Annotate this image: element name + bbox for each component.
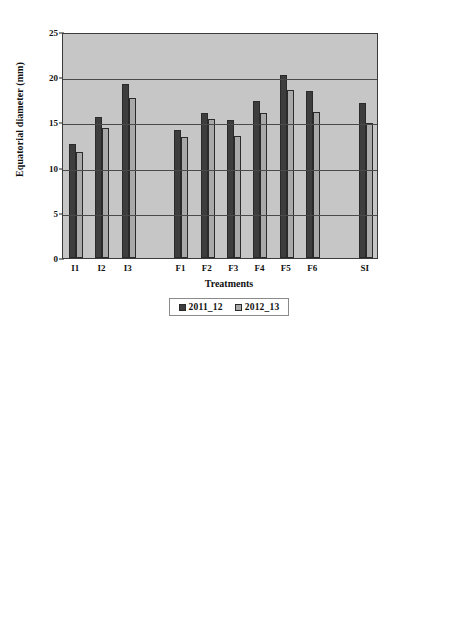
chart1-plot-area [62,33,378,259]
bar-I3-2012_13 [129,98,136,258]
chart1-x-tick-F1: F1 [176,263,186,273]
bar-group [221,34,247,258]
bar-I1-2011_12 [69,144,76,258]
bar-I3-2011_12 [122,84,129,258]
bar-F2-2011_12 [201,113,208,258]
bar-F6-2012_13 [313,112,320,258]
chart1-y-tick: 15 [49,118,58,128]
bar-F3-2012_13 [234,136,241,258]
chart-equatorial-diameter: Equatorial diameter (mm) 0510152025 I1I2… [0,0,458,330]
legend-item-2011_12: 2011_12 [179,302,223,312]
chart1-x-tick-F2: F2 [202,263,212,273]
chart1-y-axis-title: Equatorial diameter (mm) [14,35,25,205]
bar-F3-2011_12 [227,120,234,258]
legend-swatch-icon [235,304,242,311]
legend-swatch-icon [179,304,186,311]
chart1-y-tick-labels: 0510152025 [36,33,58,259]
bar-SI-2011_12 [359,103,366,258]
chart1-plot-region: Equatorial diameter (mm) 0510152025 I1I2… [0,0,458,330]
bar-group [300,34,326,258]
bar-F5-2011_12 [280,75,287,259]
chart1-x-tick-F3: F3 [228,263,238,273]
bar-F1-2011_12 [174,130,181,258]
chart1-y-tick: 25 [49,28,58,38]
chart1-y-tick: 5 [54,209,59,219]
bar-group [353,34,379,258]
chart1-x-tick-F6: F6 [307,263,317,273]
chart1-gridline [63,124,377,125]
chart2-plot-region: Polar diameters (mm) 012345678 I1I2I3F1F… [0,330,458,638]
bar-I1-2012_13 [76,152,83,258]
bar-F2-2012_13 [208,119,215,258]
chart1-bars [63,34,377,258]
chart1-legend: 2011_122012_13 [0,298,458,316]
bar-F5-2012_13 [287,90,294,258]
chart1-gridline [63,215,377,216]
bar-I2-2011_12 [95,117,102,258]
chart1-x-tick-labels: I1I2I3F1F2F3F4F5F6SI [62,263,378,277]
bar-F4-2012_13 [260,113,267,258]
bar-group [168,34,194,258]
legend-label: 2011_12 [189,302,223,312]
chart1-legend-box: 2011_122012_13 [169,298,290,316]
chart1-x-axis-title: Treatments [0,278,458,289]
figure-page: Equatorial diameter (mm) 0510152025 I1I2… [0,0,458,638]
chart1-x-tick-SI: SI [361,263,370,273]
chart1-x-tick-I3: I3 [124,263,132,273]
legend-label: 2012_13 [245,302,280,312]
bar-F1-2012_13 [181,137,188,258]
bar-SI-2012_13 [366,123,373,258]
chart1-y-tick: 20 [49,73,58,83]
bar-group [247,34,273,258]
bar-F6-2011_12 [306,91,313,258]
bar-group [63,34,89,258]
chart1-y-tick: 10 [49,164,58,174]
chart1-gridline [63,79,377,80]
bar-group [274,34,300,258]
chart1-x-tick-I2: I2 [97,263,105,273]
chart1-gridline [63,170,377,171]
chart1-y-tick: 0 [54,254,59,264]
legend-item-2012_13: 2012_13 [235,302,280,312]
chart-polar-diameters: Polar diameters (mm) 012345678 I1I2I3F1F… [0,330,458,638]
chart1-x-tick-F5: F5 [281,263,291,273]
bar-group [195,34,221,258]
chart1-x-tick-F4: F4 [255,263,265,273]
bar-group [89,34,115,258]
chart1-x-tick-I1: I1 [71,263,79,273]
bar-I2-2012_13 [102,128,109,258]
bar-group [116,34,142,258]
